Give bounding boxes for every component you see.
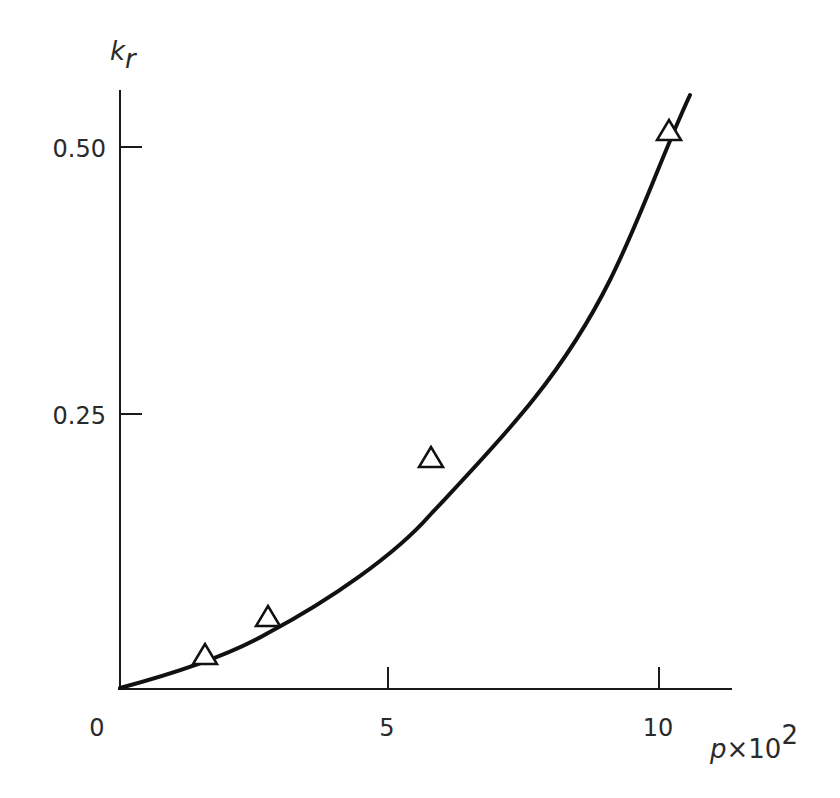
data-point-triangle xyxy=(256,606,280,626)
x-axis-times: ×10 xyxy=(727,734,782,764)
y-axis-subscript: r xyxy=(125,44,138,74)
x-axis-symbol: p xyxy=(709,734,727,764)
y-axis-symbol: k xyxy=(110,36,126,66)
y-tick-label-050: 0.50 xyxy=(53,135,106,163)
data-point-triangle xyxy=(193,644,217,664)
x-tick-label-0: 0 xyxy=(89,714,104,742)
y-tick-label-025: 0.25 xyxy=(53,402,106,430)
x-axis-exponent: 2 xyxy=(781,720,798,750)
x-axis-label: p×102 xyxy=(709,720,798,764)
x-tick-label-10: 10 xyxy=(643,714,674,742)
y-axis-label: kr xyxy=(110,36,138,74)
x-tick-label-5: 5 xyxy=(379,714,394,742)
data-point-triangle xyxy=(419,447,443,467)
chart: 0.50 0.25 0 5 10 kr p×102 xyxy=(0,0,840,798)
fitted-curve xyxy=(120,95,690,688)
